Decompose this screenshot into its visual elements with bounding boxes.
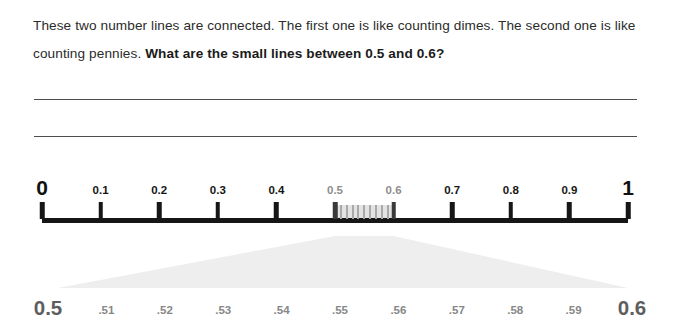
tenths-label-0-8: 0.8 xyxy=(503,184,519,196)
tenths-label-0-6: 0.6 xyxy=(386,184,402,196)
tenths-tick-0-9 xyxy=(567,202,572,219)
hundredth-tick-0-58 xyxy=(381,205,383,219)
tenths-tick-0-5 xyxy=(333,202,338,219)
prompt-question: What are the small lines between 0.5 and… xyxy=(145,46,444,61)
hundredths-label--57: .57 xyxy=(449,304,465,316)
hundredths-label--59: .59 xyxy=(566,304,582,316)
hundredth-tick-0-55 xyxy=(363,205,365,219)
zoom-expander-funnel xyxy=(0,233,678,291)
tenths-label-0-9: 0.9 xyxy=(561,184,577,196)
hundredth-tick-0-57 xyxy=(375,205,377,219)
tenths-tick-0-3 xyxy=(216,202,221,219)
tenths-label-0-1: 0.1 xyxy=(93,184,109,196)
hundredths-label--52: .52 xyxy=(157,304,173,316)
hundredth-tick-0-51 xyxy=(340,205,342,219)
hundredths-label--55: .55 xyxy=(332,304,348,316)
hundredths-label-0-6: 0.6 xyxy=(618,296,647,320)
tenths-tick-0-8 xyxy=(509,202,514,219)
hundredth-tick-0-56 xyxy=(369,205,371,219)
tenths-tick-1 xyxy=(626,202,631,219)
prompt-text: These two number lines are connected. Th… xyxy=(33,12,641,68)
hundredths-label--51: .51 xyxy=(98,304,114,316)
tenths-label-0-5: 0.5 xyxy=(327,184,343,196)
tenths-tick-0-2 xyxy=(157,202,162,219)
tenths-label-0-4: 0.4 xyxy=(268,184,284,196)
hundredths-label--53: .53 xyxy=(215,304,231,316)
tenths-tick-0-1 xyxy=(98,202,103,219)
hundredths-label--58: .58 xyxy=(507,304,523,316)
tenths-label-0-7: 0.7 xyxy=(444,184,460,196)
hundredths-number-line: 0.5.51.52.53.54.55.56.57.58.590.6 xyxy=(0,292,678,334)
hundredth-tick-0-54 xyxy=(357,205,359,219)
tenths-label-0-2: 0.2 xyxy=(151,184,167,196)
tenths-tick-0 xyxy=(40,202,45,219)
tenths-label-0: 0 xyxy=(36,176,48,200)
answer-line-2[interactable] xyxy=(34,136,637,137)
tenths-tick-0-7 xyxy=(450,202,455,219)
tenths-number-line: 00.10.20.30.40.50.60.70.80.91 xyxy=(0,168,678,230)
tenths-label-0-3: 0.3 xyxy=(210,184,226,196)
hundredths-label-0-5: 0.5 xyxy=(34,296,63,320)
tenths-label-1: 1 xyxy=(622,176,634,200)
hundredths-label--56: .56 xyxy=(390,304,406,316)
answer-line-1[interactable] xyxy=(34,99,637,100)
hundredth-tick-0-53 xyxy=(352,205,354,219)
hundredth-tick-0-52 xyxy=(346,205,348,219)
hundredth-tick-0-59 xyxy=(387,205,389,219)
tenths-tick-0-4 xyxy=(274,202,279,219)
tenths-tick-0-6 xyxy=(391,202,396,219)
zoom-expander-shape xyxy=(58,236,628,288)
hundredths-label--54: .54 xyxy=(274,304,290,316)
